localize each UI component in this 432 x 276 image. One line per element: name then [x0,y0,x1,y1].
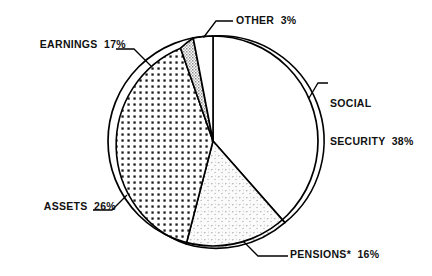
slice-label-earnings: EARNINGS 17% [16,38,126,51]
leader-line-other [204,21,234,38]
slice-label-social-security: SOCIAL SECURITY 38% [330,72,414,172]
slice-label-social-security-line1: SOCIAL [330,97,414,110]
slice-label-assets: ASSETS 26% [8,200,116,213]
pie-chart-figure: OTHER 3% SOCIAL SECURITY 38% EARNINGS 17… [0,0,432,276]
slice-label-pensions: PENSIONS* 16% [290,248,379,261]
slice-label-other: OTHER 3% [236,14,296,27]
leader-line-earnings [116,49,151,66]
slice-label-social-security-line2: SECURITY 38% [330,135,414,148]
